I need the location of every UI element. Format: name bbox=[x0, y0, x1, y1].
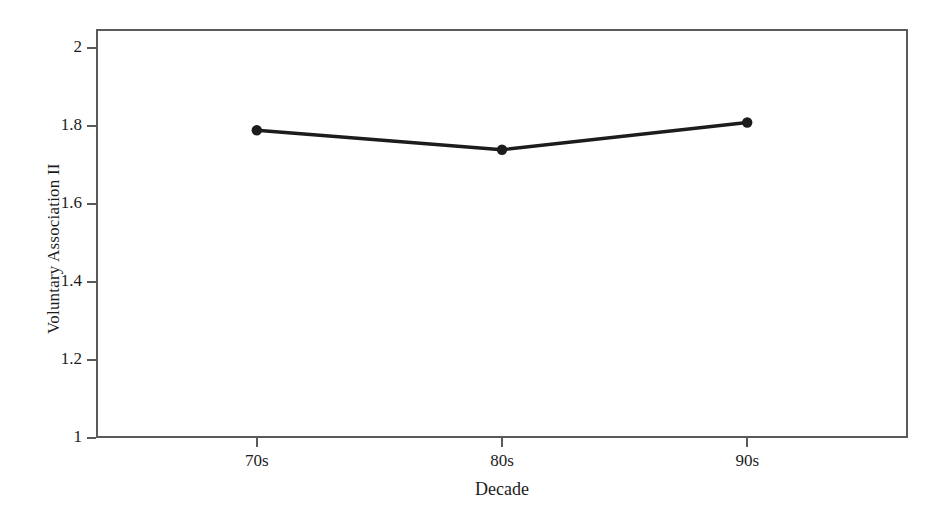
y-axis-title-wrap: Voluntary Association II bbox=[44, 334, 66, 335]
y-tick-mark bbox=[87, 281, 96, 283]
y-axis-title: Voluntary Association II bbox=[44, 34, 64, 334]
x-axis-title: Decade bbox=[96, 477, 908, 501]
y-tick-mark bbox=[87, 203, 96, 205]
y-tick-label: 1 bbox=[74, 426, 83, 448]
y-tick-1: 1 bbox=[0, 438, 96, 439]
x-tick-label: 70s bbox=[217, 450, 297, 472]
x-tick-mark bbox=[746, 438, 748, 447]
y-tick-mark bbox=[87, 437, 96, 439]
x-tick-mark bbox=[256, 438, 258, 447]
x-tick-label: 90s bbox=[707, 450, 787, 472]
x-tick-mark bbox=[501, 438, 503, 447]
x-tick-label: 80s bbox=[462, 450, 542, 472]
y-tick-label: 2 bbox=[74, 36, 83, 58]
y-tick-label: 1.2 bbox=[61, 348, 82, 370]
y-tick-mark bbox=[87, 359, 96, 361]
y-tick-1-2: 1.2 bbox=[0, 360, 96, 361]
chart-page: 21.81.61.41.21 70s80s90s Voluntary Assoc… bbox=[0, 0, 940, 517]
y-tick-mark bbox=[87, 125, 96, 127]
plot-area bbox=[96, 29, 908, 438]
y-tick-mark bbox=[87, 47, 96, 49]
